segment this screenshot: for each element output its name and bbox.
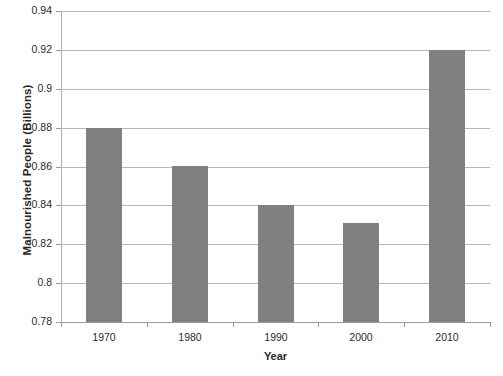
x-axis-tick-label: 1970 — [61, 331, 147, 343]
bar — [258, 205, 294, 322]
x-axis-tick — [318, 322, 319, 327]
x-axis-tick-label: 1990 — [233, 331, 319, 343]
y-axis-tick — [56, 322, 61, 323]
x-axis-title: Year — [61, 350, 490, 362]
gridline — [61, 167, 490, 168]
x-axis-tick — [233, 322, 234, 327]
bar-chart: Malnourished People (Billions) 0.940.920… — [0, 0, 503, 376]
bar — [172, 166, 208, 322]
y-axis-tick — [56, 89, 61, 90]
y-axis-tick-label: 0.82 — [6, 237, 52, 249]
x-axis-tick — [147, 322, 148, 327]
gridline — [61, 128, 490, 129]
bar — [343, 223, 379, 322]
gridline — [61, 50, 490, 51]
y-axis-tick-label: 0.88 — [6, 121, 52, 133]
plot-area — [61, 11, 490, 322]
gridline — [61, 322, 490, 323]
y-axis-tick-label: 0.92 — [6, 43, 52, 55]
y-axis-tick-label: 0.86 — [6, 160, 52, 172]
y-axis-tick — [56, 128, 61, 129]
y-axis-tick-labels: 0.940.920.90.880.860.840.820.80.78 — [0, 0, 52, 376]
clipped-caption-fragment — [243, 369, 503, 376]
x-axis-tick-label: 1980 — [147, 331, 233, 343]
y-axis-tick-label: 0.8 — [6, 276, 52, 288]
x-axis-tick-label: 2010 — [404, 331, 490, 343]
y-axis-tick — [56, 50, 61, 51]
bar — [86, 128, 122, 322]
bar — [429, 50, 465, 322]
gridline — [61, 11, 490, 12]
y-axis-tick-label: 0.9 — [6, 82, 52, 94]
y-axis-tick — [56, 11, 61, 12]
x-axis-tick-label: 2000 — [318, 331, 404, 343]
y-axis-tick — [56, 283, 61, 284]
y-axis-tick — [56, 167, 61, 168]
y-axis-tick — [56, 205, 61, 206]
gridline — [61, 89, 490, 90]
y-axis-tick-label: 0.84 — [6, 198, 52, 210]
x-axis-tick — [61, 322, 62, 327]
x-axis-tick — [404, 322, 405, 327]
y-axis-tick-label: 0.94 — [6, 4, 52, 16]
y-axis-tick — [56, 244, 61, 245]
y-axis-tick-label: 0.78 — [6, 315, 52, 327]
x-axis-tick — [490, 322, 491, 327]
